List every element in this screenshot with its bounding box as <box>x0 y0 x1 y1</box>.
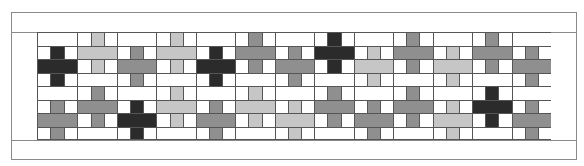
background-cell <box>78 60 90 73</box>
cross-arm-bar <box>434 114 472 127</box>
cross-stem-cell <box>485 87 498 100</box>
background-cell <box>38 74 50 87</box>
background-cell <box>434 74 446 87</box>
cross-arm-bar <box>394 47 432 60</box>
cross-arm-bar <box>78 47 116 60</box>
cross-block-grid <box>37 32 550 140</box>
cross-arm-bar <box>434 60 472 73</box>
cross-arm-row <box>394 46 432 60</box>
background-cell <box>459 47 472 60</box>
cross-arm-bar <box>276 114 314 127</box>
cross-stem-cell <box>91 33 104 46</box>
quilt-block <box>314 32 353 140</box>
cross-stem-cell <box>91 87 104 100</box>
bottom-border-band-line <box>11 140 577 141</box>
blank-strip <box>473 128 511 140</box>
cross-stem-row <box>236 113 274 127</box>
cross-stem-cell <box>327 87 340 100</box>
background-cell <box>315 33 327 46</box>
cross-stem-row <box>78 32 116 46</box>
background-cell <box>394 33 406 46</box>
block-row-blank <box>197 32 235 46</box>
background-cell <box>419 114 432 127</box>
blank-strip <box>236 74 274 87</box>
blank-strip <box>78 74 116 87</box>
background-cell <box>459 101 472 114</box>
cross-stem-cell <box>91 60 104 73</box>
background-cell <box>276 47 288 60</box>
cross-stem-cell <box>288 47 301 60</box>
cross-stem-row <box>157 32 195 46</box>
cross-stem-row <box>276 100 314 114</box>
cross-arm-bar <box>473 101 511 114</box>
cross-arm-bar <box>118 60 156 73</box>
quilt-block <box>38 32 77 140</box>
cross-stem-row <box>315 86 353 100</box>
background-cell <box>419 60 432 73</box>
blank-strip <box>197 87 235 100</box>
cross-stem-row <box>513 46 551 60</box>
background-cell <box>183 60 196 73</box>
background-cell <box>355 101 367 114</box>
cross-arm-row <box>315 46 353 60</box>
quilt-block <box>77 32 116 140</box>
cross-stem-row <box>197 100 235 114</box>
block-row-blank <box>473 127 511 141</box>
cross-arm-bar <box>157 101 195 114</box>
cross-stem-cell <box>367 128 380 140</box>
background-cell <box>473 33 485 46</box>
background-cell <box>513 47 525 60</box>
cross-arm-row <box>276 113 314 127</box>
cross-stem-cell <box>406 87 419 100</box>
cross-stem-cell <box>367 47 380 60</box>
background-cell <box>118 101 130 114</box>
cross-arm-row <box>38 113 77 127</box>
cross-stem-row <box>355 73 393 87</box>
background-cell <box>276 101 288 114</box>
blank-strip <box>78 128 116 140</box>
background-cell <box>394 114 406 127</box>
cross-stem-cell <box>130 101 143 114</box>
background-cell <box>341 87 354 100</box>
cross-arm-row <box>38 59 77 73</box>
background-cell <box>341 60 354 73</box>
cross-stem-cell <box>525 47 538 60</box>
block-row-blank <box>434 32 472 46</box>
cross-arm-row <box>276 59 314 73</box>
blank-strip <box>276 87 314 100</box>
cross-stem-row <box>236 32 274 46</box>
cross-stem-cell <box>367 101 380 114</box>
blank-strip <box>118 33 156 46</box>
cross-stem-cell <box>288 74 301 87</box>
cross-stem-row <box>197 127 235 141</box>
cross-stem-cell <box>446 74 459 87</box>
block-row-blank <box>355 32 393 46</box>
cross-stem-row <box>355 46 393 60</box>
cross-stem-row <box>118 127 156 141</box>
background-cell <box>498 114 511 127</box>
blank-strip <box>394 128 432 140</box>
cross-stem-cell <box>50 74 63 87</box>
cross-stem-cell <box>170 114 183 127</box>
cross-stem-row <box>78 86 116 100</box>
cross-arm-bar <box>236 47 274 60</box>
cross-stem-row <box>394 59 432 73</box>
background-cell <box>78 33 90 46</box>
blank-strip <box>513 87 551 100</box>
cross-stem-row <box>157 86 195 100</box>
background-cell <box>118 47 130 60</box>
blank-strip <box>434 33 472 46</box>
cross-stem-cell <box>525 101 538 114</box>
background-cell <box>341 33 354 46</box>
cross-arm-bar <box>78 101 116 114</box>
block-row-blank <box>315 127 353 141</box>
background-cell <box>38 47 50 60</box>
cross-stem-row <box>473 32 511 46</box>
cross-stem-row <box>473 86 511 100</box>
cross-stem-row <box>473 59 511 73</box>
background-cell <box>434 101 446 114</box>
cross-arm-bar <box>197 114 235 127</box>
cross-stem-cell <box>209 74 222 87</box>
background-cell <box>538 47 551 60</box>
cross-stem-cell <box>446 128 459 140</box>
